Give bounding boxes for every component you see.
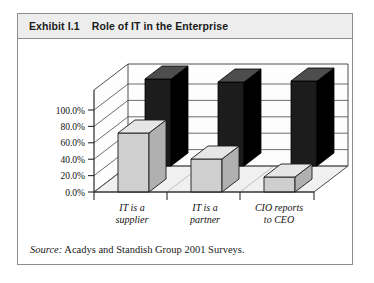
bar-front-1 xyxy=(118,120,166,192)
bar-back-3 xyxy=(291,68,334,166)
ytick-label-100: 100.0% xyxy=(56,106,85,116)
category-axis-ticks xyxy=(94,192,314,200)
ytick-label-0: 0.0% xyxy=(65,188,85,198)
category-label-3-line2: to CEO xyxy=(264,214,294,225)
category-label-1-line1: IT is a xyxy=(118,202,144,213)
ytick-label-60: 60.0% xyxy=(60,138,85,148)
bar-chart-3d: 0.0% 20.0% 40.0% 60.0% 80.0% 100.0% xyxy=(18,40,352,226)
exhibit-title: Role of IT in the Enterprise xyxy=(92,20,228,32)
chart-area: 0.0% 20.0% 40.0% 60.0% 80.0% 100.0% xyxy=(18,40,352,226)
source-label: Source: xyxy=(30,244,62,255)
category-label-1-line2: supplier xyxy=(116,214,149,225)
category-label-2-line2: partner xyxy=(189,214,220,225)
category-label-2-line1: IT is a xyxy=(191,202,217,213)
exhibit-number: Exhibit I.1 xyxy=(29,20,80,32)
exhibit-panel: Exhibit I.1 Role of IT in the Enterprise xyxy=(17,13,353,265)
ytick-label-20: 20.0% xyxy=(60,171,85,181)
ytick-label-40: 40.0% xyxy=(60,155,85,165)
category-label-3-line1: CIO reports xyxy=(255,202,303,213)
exhibit-title-bar: Exhibit I.1 Role of IT in the Enterprise xyxy=(18,14,352,39)
value-axis-ticks xyxy=(88,110,94,192)
source-text: Acadys and Standish Group 2001 Surveys. xyxy=(64,244,244,255)
source-line: Source: Acadys and Standish Group 2001 S… xyxy=(30,244,340,255)
ytick-label-80: 80.0% xyxy=(60,122,85,132)
